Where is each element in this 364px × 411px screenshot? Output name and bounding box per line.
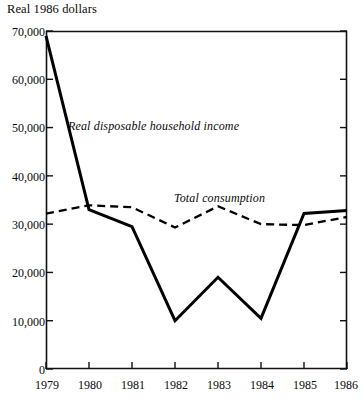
x-tick-label: 1981 (121, 379, 145, 391)
line-chart-figure: Real 1986 dollars 70,000 60,000 50,000 4… (0, 0, 364, 411)
x-tick-label: 1983 (207, 379, 231, 391)
x-tick-label: 1980 (78, 379, 102, 391)
x-tick-label: 1979 (35, 379, 59, 391)
data-series (46, 36, 347, 321)
series-label-consumption: Total consumption (174, 191, 265, 206)
x-tick-label: 1984 (250, 379, 274, 391)
x-tick-label: 1982 (164, 379, 188, 391)
series-line-income (46, 36, 347, 321)
x-tick-label: 1985 (293, 379, 317, 391)
x-tick-label: 1986 (334, 379, 358, 391)
series-label-income: Real disposable household income (68, 119, 239, 134)
